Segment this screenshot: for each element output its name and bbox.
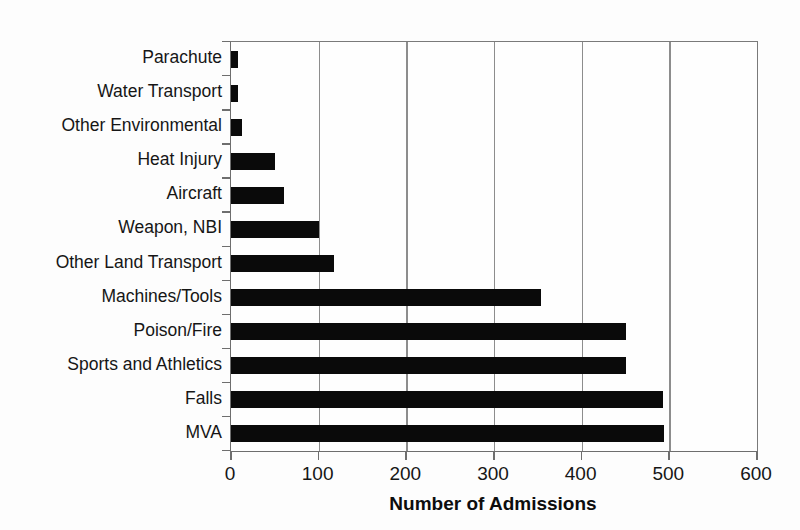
x-axis-tick-label: 300: [453, 464, 533, 483]
y-axis-tick: [222, 280, 230, 281]
x-axis-title: Number of Admissions: [230, 494, 756, 513]
bar: [231, 391, 663, 408]
y-axis-tick-label: Water Transport: [0, 83, 222, 101]
y-axis-tick: [222, 41, 230, 42]
y-axis-tick: [222, 348, 230, 349]
plot-area: [230, 41, 758, 452]
y-axis-tick: [222, 211, 230, 212]
gridline: [494, 42, 495, 451]
x-axis-tick: [668, 451, 670, 460]
x-axis-tick-label: 600: [716, 464, 796, 483]
bar: [231, 357, 626, 374]
x-axis-tick-label: 400: [541, 464, 621, 483]
y-axis-tick-label: Weapon, NBI: [0, 219, 222, 237]
y-axis-tick-label: Heat Injury: [0, 151, 222, 169]
x-axis-tick-label: 500: [628, 464, 708, 483]
bar: [231, 221, 319, 238]
y-axis-tick: [222, 177, 230, 178]
y-axis-tick: [222, 314, 230, 315]
x-axis-tick-label: 200: [365, 464, 445, 483]
y-axis-tick: [222, 75, 230, 76]
bar: [231, 51, 238, 68]
gridline: [319, 42, 320, 451]
chart-figure: ParachuteWater TransportOther Environmen…: [0, 0, 800, 530]
y-axis-tick: [222, 382, 230, 383]
bar: [231, 289, 541, 306]
x-axis-tick: [756, 451, 758, 460]
y-axis-tick-label: MVA: [0, 424, 222, 442]
bar: [231, 85, 238, 102]
y-axis-tick-label: Parachute: [0, 49, 222, 67]
y-axis-tick-label: Other Land Transport: [0, 254, 222, 272]
y-axis-tick-label: Aircraft: [0, 185, 222, 203]
x-axis-tick: [405, 451, 407, 460]
x-axis-tick: [318, 451, 320, 460]
y-axis-tick-label: Falls: [0, 390, 222, 408]
gridline: [406, 42, 407, 451]
y-axis-tick: [222, 109, 230, 110]
bar: [231, 425, 664, 442]
x-axis-tick-label: 0: [190, 464, 270, 483]
y-axis-tick-label: Machines/Tools: [0, 288, 222, 306]
y-axis-tick: [222, 450, 230, 451]
y-axis-category-labels: ParachuteWater TransportOther Environmen…: [0, 41, 222, 450]
y-axis-tick: [222, 143, 230, 144]
gridline: [582, 42, 583, 451]
x-axis-tick: [230, 451, 232, 460]
x-axis-tick-label: 100: [278, 464, 358, 483]
bar: [231, 323, 626, 340]
y-axis-tick-label: Other Environmental: [0, 117, 222, 135]
y-axis-tick-label: Sports and Athletics: [0, 356, 222, 374]
y-axis-tick: [222, 416, 230, 417]
bar: [231, 255, 334, 272]
bar: [231, 187, 284, 204]
bar: [231, 119, 242, 136]
x-axis-tick: [493, 451, 495, 460]
gridline: [669, 42, 670, 451]
x-axis-tick: [581, 451, 583, 460]
y-axis-tick-label: Poison/Fire: [0, 322, 222, 340]
y-axis-tick: [222, 246, 230, 247]
bar: [231, 153, 275, 170]
